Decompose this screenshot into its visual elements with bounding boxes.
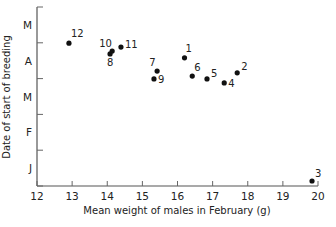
point-label: 6 — [194, 62, 200, 73]
scatter-chart: 121314151617181920JFMAM 123456789101112 … — [0, 0, 336, 227]
point-label: 7 — [149, 57, 155, 68]
point-label: 8 — [107, 57, 113, 68]
point-label: 1 — [186, 43, 192, 54]
point-marker — [118, 44, 123, 49]
data-point: 3 — [309, 168, 321, 184]
x-tick-label: 18 — [241, 190, 254, 202]
point-marker — [151, 76, 156, 81]
y-tick-label: A — [25, 55, 33, 67]
x-axis-title: Mean weight of males in February (g) — [83, 205, 270, 216]
point-marker — [155, 68, 160, 73]
data-point: 10 — [99, 38, 115, 54]
point-label: 10 — [99, 38, 112, 49]
point-label: 4 — [228, 78, 234, 89]
point-marker — [309, 178, 314, 183]
x-tick-label: 12 — [30, 190, 43, 202]
point-label: 12 — [71, 28, 84, 39]
point-label: 11 — [125, 39, 138, 50]
data-point: 9 — [151, 74, 164, 85]
x-tick-label: 14 — [101, 190, 115, 202]
data-point: 6 — [190, 62, 201, 79]
point-marker — [190, 73, 195, 78]
data-point: 4 — [222, 78, 235, 89]
y-tick-label: J — [28, 162, 32, 174]
x-tick-label: 20 — [311, 190, 324, 202]
point-label: 9 — [158, 74, 164, 85]
x-tick-label: 19 — [276, 190, 289, 202]
x-tick-label: 17 — [206, 190, 219, 202]
axes: 121314151617181920JFMAM — [23, 7, 325, 202]
y-tick-label: M — [23, 19, 32, 31]
data-point: 11 — [118, 39, 137, 50]
data-points: 123456789101112 — [66, 28, 321, 183]
point-marker — [235, 70, 240, 75]
data-point: 7 — [149, 57, 160, 74]
x-tick-label: 16 — [171, 190, 185, 202]
data-point: 1 — [182, 43, 192, 61]
data-point: 2 — [235, 61, 248, 76]
point-marker — [182, 55, 187, 60]
point-marker — [110, 48, 115, 53]
y-axis-title: Date of start of breeding — [1, 35, 12, 159]
x-tick-label: 13 — [65, 190, 78, 202]
data-point: 5 — [204, 68, 217, 82]
y-tick-label: F — [26, 126, 32, 138]
data-point: 8 — [107, 51, 113, 68]
x-tick-label: 15 — [136, 190, 149, 202]
point-label: 5 — [211, 68, 217, 79]
y-tick-label: M — [23, 91, 32, 103]
point-marker — [66, 41, 71, 46]
point-label: 3 — [315, 168, 321, 179]
data-point: 12 — [66, 28, 83, 46]
point-marker — [222, 80, 227, 85]
point-label: 2 — [241, 61, 247, 72]
point-marker — [204, 76, 209, 81]
